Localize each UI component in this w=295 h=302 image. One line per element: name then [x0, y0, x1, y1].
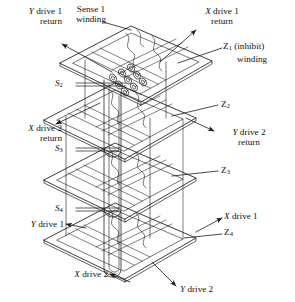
label-y-drive-1-axis: Y [31, 219, 36, 229]
label-x-drive-2: X drive 2 [38, 269, 108, 279]
label-z3-subscript: 3 [227, 168, 230, 175]
label-s4: S4 [55, 203, 63, 216]
label-z4-subscript: 4 [230, 230, 233, 237]
label-x-drive-1-return-line2: return [211, 16, 233, 26]
label-y-drive-2: Y drive 2 [180, 284, 213, 294]
label-y-drive-2-text: drive 2 [187, 284, 213, 294]
label-x-drive-1-text: drive 1 [232, 211, 258, 221]
label-y-drive-2-return: Y drive 2 return [214, 127, 284, 148]
label-z4: Z4 [224, 227, 233, 240]
label-y-drive-1-return-line1: drive 1 [36, 6, 62, 16]
label-y-drive-1-return-axis: Y [29, 6, 34, 16]
label-y-drive-2-axis: Y [180, 284, 185, 294]
label-z1-winding: winding [237, 54, 267, 64]
label-x-drive-1: X drive 1 [224, 211, 258, 221]
label-z2: Z2 [221, 99, 230, 112]
label-z1-paren: (inhibit) [234, 41, 264, 51]
label-x-drive-2-text: drive 2 [82, 269, 108, 279]
label-z1-subscript: 1 [229, 44, 232, 51]
label-x-drive-1-return: X drive 1 return [186, 6, 258, 27]
label-z2-subscript: 2 [227, 102, 230, 109]
label-y-drive-1-return-line2: return [40, 16, 62, 26]
label-y-drive-1-text: drive 1 [38, 219, 64, 229]
label-s2: S2 [55, 78, 63, 91]
label-x-drive-2-return-line1: drive 2 [36, 123, 62, 133]
label-sense-1-winding-line1: Sense 1 [77, 4, 105, 14]
label-s3: S3 [55, 143, 63, 156]
label-x-drive-2-return: X drive 2 return [0, 123, 62, 144]
label-sense-1-winding-line2: winding [76, 14, 106, 24]
label-x-drive-1-axis: X [224, 211, 230, 221]
label-y-drive-2-return-line2: return [238, 137, 260, 147]
label-s4-subscript: 4 [60, 206, 63, 213]
label-y-drive-2-return-axis: Y [232, 127, 237, 137]
label-s2-subscript: 2 [60, 81, 63, 88]
label-x-drive-1-return-axis: X [205, 6, 211, 16]
label-x-drive-2-return-line2: return [40, 133, 62, 143]
label-s3-subscript: 3 [60, 146, 63, 153]
label-x-drive-2-axis: X [74, 269, 80, 279]
core-memory-diagram: Y drive 1 return Sense 1 winding X drive… [0, 0, 295, 302]
label-y-drive-2-return-line1: drive 2 [240, 127, 266, 137]
label-x-drive-1-return-line1: drive 1 [213, 6, 239, 16]
label-sense-1-winding: Sense 1 winding [62, 4, 120, 25]
label-x-drive-2-return-axis: X [28, 123, 34, 133]
label-z3: Z3 [221, 165, 230, 178]
label-y-drive-1: Y drive 1 [0, 219, 64, 229]
label-y-drive-1-return: Y drive 1 return [0, 6, 62, 27]
core-plane-3 [44, 143, 196, 222]
label-z1-inhibit-winding: Z1 (inhibit) winding [223, 41, 295, 64]
